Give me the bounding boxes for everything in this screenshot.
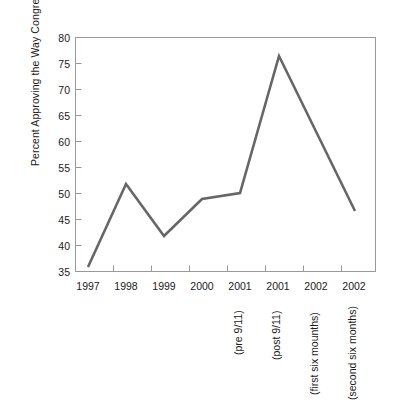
plot-area — [0, 0, 395, 402]
y-axis-ticks — [76, 64, 82, 246]
plot-frame — [76, 38, 376, 272]
x-axis-ticks — [114, 266, 342, 272]
data-line-congress-approval — [88, 56, 355, 267]
chart-container: Percent Approving the Way Congress is Ha… — [0, 0, 395, 402]
